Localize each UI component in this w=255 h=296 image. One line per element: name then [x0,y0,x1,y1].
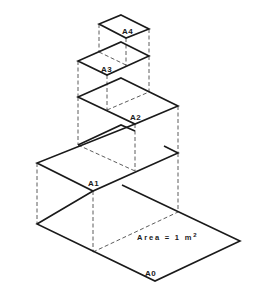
sheet-label-a0: A0 [145,269,156,278]
sheet-label-a1: A1 [88,179,99,188]
paper-size-diagram: A0 Area = 1 m2 A1 A2 A3 A4 [0,0,255,296]
sheet-a3: A3 [78,42,149,75]
hidden-lines [37,24,178,252]
area-annotation: Area = 1 m2 [137,232,198,242]
sheet-label-a4: A4 [122,27,133,36]
sheet-a4: A4 [99,15,149,38]
sheet-a0: A0 Area = 1 m2 [37,185,240,281]
sheet-a1: A1 [37,124,178,191]
figure-caption-clipped [2,289,252,296]
sheet-label-a3: A3 [101,65,112,74]
sheet-label-a2: A2 [130,113,141,122]
